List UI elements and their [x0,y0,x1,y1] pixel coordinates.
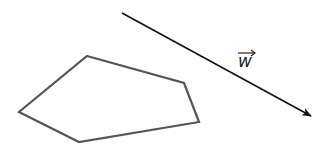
vector-label-letter: w [238,52,252,70]
vector-w-arrow [122,13,311,116]
vector-label: w [236,49,258,71]
pentagon-shape [19,56,199,142]
diagram-canvas [0,0,320,161]
